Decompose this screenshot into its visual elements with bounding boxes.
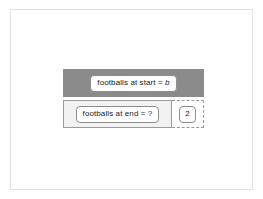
- bar-end-label: footballs at end = ?: [76, 106, 160, 123]
- bar-end-known-segment: footballs at end = ?: [63, 100, 172, 128]
- figure-root: footballs at start = b footballs at end …: [0, 0, 263, 199]
- bar-end-unknown-segment: 2: [172, 100, 204, 128]
- bar-end: footballs at end = ? 2: [63, 100, 204, 128]
- bar-start: footballs at start = b: [63, 69, 204, 97]
- bar-start-label: footballs at start = b: [90, 75, 176, 92]
- bar-start-label-variable: b: [165, 78, 170, 87]
- bar-end-unknown-value: 2: [179, 106, 195, 123]
- bar-model-diagram: footballs at start = b footballs at end …: [63, 69, 204, 128]
- bar-start-label-text: footballs at start =: [97, 78, 165, 87]
